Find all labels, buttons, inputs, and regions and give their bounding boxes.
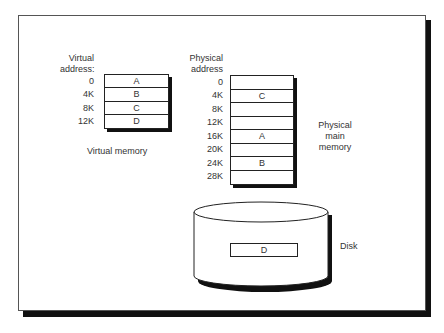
disk-page-d: D — [230, 243, 298, 257]
disk-cylinder — [0, 0, 444, 333]
disk-label: Disk — [340, 241, 358, 252]
